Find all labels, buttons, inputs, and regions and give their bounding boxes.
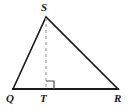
vertex-label-t: T [40,93,47,104]
right-angle-icon [46,81,54,89]
triangle-qsr-outline [13,17,118,89]
geometry-figure: S Q T R [0,0,131,110]
vertex-label-q: Q [6,93,14,104]
triangle-diagram-canvas [0,0,131,110]
vertex-label-s: S [41,2,47,13]
vertex-label-r: R [114,93,121,104]
